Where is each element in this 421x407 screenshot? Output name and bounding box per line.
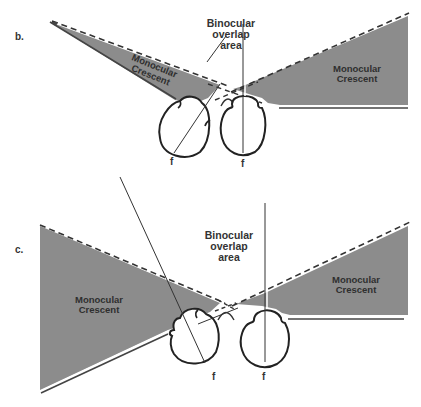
right-crescent-label: Monocular Crescent [332, 274, 380, 295]
panel-b-label: b. [15, 31, 24, 42]
right-crescent-label: Monocular Crescent [333, 63, 381, 84]
nose-icon [218, 313, 234, 321]
svg-text:Crescent: Crescent [79, 304, 120, 315]
right-monocular-crescent-area [233, 16, 408, 105]
fovea-label-right: f [262, 371, 266, 382]
svg-text:Crescent: Crescent [336, 284, 377, 295]
fovea-label-right: f [241, 158, 245, 169]
svg-text:area: area [218, 251, 240, 263]
fovea-label-left: f [170, 156, 174, 167]
fovea-label-left: f [212, 371, 216, 382]
svg-text:Crescent: Crescent [337, 73, 378, 84]
left-eye-icon [159, 97, 210, 157]
left-crescent-label: Monocular Crescent [75, 294, 123, 315]
binocular-vision-diagram: b. f f Binocular [0, 0, 421, 407]
panel-b: b. f f Binocular [15, 13, 409, 169]
overlap-label: Binocular overlap area [205, 229, 253, 263]
svg-text:area: area [220, 39, 242, 51]
overlap-label: Binocular overlap area [207, 17, 255, 51]
panel-c: c. f f Binocular overl [15, 177, 410, 393]
panel-c-label: c. [15, 244, 24, 255]
right-monocular-crescent-area [236, 226, 408, 315]
